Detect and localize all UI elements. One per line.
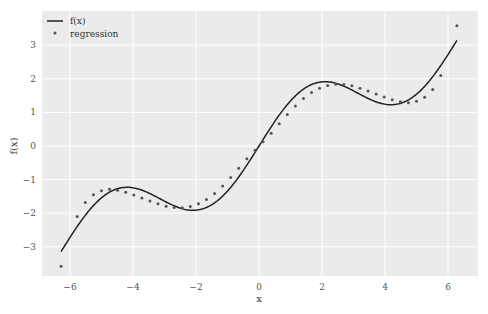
regression-point — [318, 87, 321, 90]
regression-point — [165, 205, 168, 208]
regression-point — [221, 184, 224, 187]
regression-point — [350, 84, 353, 87]
legend-label-fx: f(x) — [70, 16, 85, 26]
y-tick-label: −2 — [23, 208, 36, 218]
regression-point — [367, 89, 370, 92]
regression-point — [326, 84, 329, 87]
x-tick-label: −2 — [189, 282, 202, 292]
x-tick-label: 0 — [256, 282, 262, 292]
chart: −6−4−20246 −3−2−10123 f(x) regression x … — [0, 0, 488, 314]
regression-point — [399, 100, 402, 103]
regression-point — [391, 98, 394, 101]
regression-point — [213, 192, 216, 195]
y-axis-ticks: −3−2−10123 — [23, 40, 37, 252]
regression-point — [455, 24, 458, 27]
legend-dot-icon — [54, 32, 57, 35]
x-tick-label: 4 — [382, 282, 388, 292]
regression-point — [334, 83, 337, 86]
regression-point — [286, 113, 289, 116]
regression-point — [423, 96, 426, 99]
regression-point — [148, 200, 151, 203]
regression-point — [358, 87, 361, 90]
y-tick-label: 0 — [30, 141, 36, 151]
regression-point — [253, 149, 256, 152]
x-axis-label: x — [256, 293, 262, 304]
regression-point — [132, 194, 135, 197]
regression-point — [278, 122, 281, 125]
y-tick-label: −1 — [23, 175, 36, 185]
regression-point — [140, 197, 143, 200]
x-tick-label: −4 — [126, 282, 140, 292]
x-tick-label: 6 — [445, 282, 451, 292]
y-tick-label: −3 — [23, 242, 37, 252]
y-tick-label: 2 — [30, 74, 36, 84]
regression-point — [375, 92, 378, 95]
regression-point — [302, 97, 305, 100]
regression-point — [157, 202, 160, 205]
y-tick-label: 1 — [30, 107, 36, 117]
regression-point — [197, 202, 200, 205]
y-axis-label: f(x) — [8, 137, 19, 154]
regression-point — [84, 201, 87, 204]
regression-point — [439, 74, 442, 77]
regression-point — [124, 191, 127, 194]
regression-point — [92, 193, 95, 196]
x-tick-label: 2 — [319, 282, 325, 292]
regression-point — [294, 105, 297, 108]
regression-point — [237, 167, 240, 170]
regression-point — [245, 157, 248, 160]
regression-point — [407, 101, 410, 104]
x-axis-ticks: −6−4−20246 — [63, 282, 451, 292]
regression-point — [205, 198, 208, 201]
regression-point — [310, 91, 313, 94]
regression-point — [342, 83, 345, 86]
regression-point — [229, 176, 232, 179]
regression-point — [108, 188, 111, 191]
regression-point — [60, 265, 63, 268]
regression-point — [76, 215, 79, 218]
regression-point — [181, 206, 184, 209]
regression-point — [383, 95, 386, 98]
regression-point — [431, 88, 434, 91]
y-tick-label: 3 — [30, 40, 36, 50]
regression-point — [189, 205, 192, 208]
x-tick-label: −6 — [63, 282, 77, 292]
regression-point — [262, 140, 265, 143]
regression-point — [100, 189, 103, 192]
legend-label-regression: regression — [70, 29, 119, 39]
regression-point — [270, 132, 273, 135]
regression-point — [173, 206, 176, 209]
regression-point — [415, 100, 418, 103]
regression-point — [116, 189, 119, 192]
